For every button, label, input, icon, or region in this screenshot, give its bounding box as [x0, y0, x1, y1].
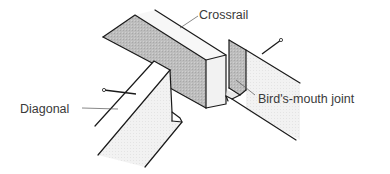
crossrail-end-face	[206, 55, 226, 108]
birds-mouth-joint-diagram: Crossrail Diagonal Bird's-mouth joint	[0, 0, 390, 174]
label-birds-mouth-joint: Bird's-mouth joint	[258, 92, 355, 106]
crossrail-leader	[180, 16, 198, 28]
label-diagonal: Diagonal	[20, 102, 69, 116]
diagonal-member	[95, 61, 182, 167]
right-rail-member	[226, 40, 300, 140]
nail-right	[262, 38, 283, 54]
label-crossrail: Crossrail	[199, 8, 248, 22]
